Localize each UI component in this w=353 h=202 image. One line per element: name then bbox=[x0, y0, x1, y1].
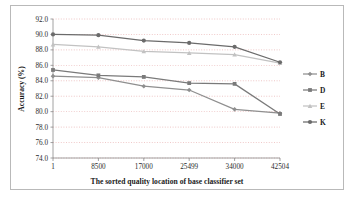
y-tick-label: 84.0 bbox=[35, 77, 48, 85]
y-tick-label: 82.0 bbox=[35, 93, 48, 101]
data-point-marker bbox=[51, 68, 55, 72]
x-tick-label: 42504 bbox=[271, 163, 289, 171]
y-tick-label: 80.0 bbox=[35, 108, 48, 116]
data-point-marker bbox=[233, 45, 237, 49]
x-tick-label: 34000 bbox=[226, 163, 244, 171]
data-point-marker bbox=[97, 73, 101, 77]
legend-label-e: E bbox=[320, 102, 325, 111]
x-tick-label: 1 bbox=[51, 163, 55, 171]
y-tick-label: 86.0 bbox=[35, 62, 48, 70]
data-point-marker bbox=[278, 60, 282, 64]
x-tick-label: 17000 bbox=[135, 163, 153, 171]
y-tick-label: 78.0 bbox=[35, 124, 48, 132]
y-tick-label: 74.0 bbox=[35, 155, 48, 163]
data-point-marker bbox=[308, 120, 312, 124]
x-axis-ticks: 1850017000254993400042504 bbox=[51, 158, 289, 171]
chart-svg: 74.076.078.080.082.084.086.088.090.092.0… bbox=[0, 0, 353, 202]
y-tick-label: 92.0 bbox=[35, 16, 48, 24]
chart-legend: BDEK bbox=[303, 70, 326, 127]
data-point-marker bbox=[278, 112, 282, 116]
x-axis-title: The sorted quality location of base clas… bbox=[91, 177, 244, 186]
y-axis-title: Accuracy (%) bbox=[17, 66, 26, 112]
data-point-marker bbox=[96, 33, 100, 37]
legend-label-k: K bbox=[320, 118, 326, 127]
y-tick-label: 88.0 bbox=[35, 46, 48, 54]
data-point-marker bbox=[142, 75, 146, 79]
data-point-marker bbox=[51, 32, 55, 36]
data-point-marker bbox=[187, 41, 191, 45]
y-tick-label: 90.0 bbox=[35, 31, 48, 39]
data-point-marker bbox=[187, 81, 191, 85]
legend-label-b: B bbox=[320, 70, 325, 79]
line-chart: 74.076.078.080.082.084.086.088.090.092.0… bbox=[0, 0, 353, 202]
y-axis-ticks: 74.076.078.080.082.084.086.088.090.092.0 bbox=[35, 16, 53, 163]
y-tick-label: 76.0 bbox=[35, 139, 48, 147]
x-tick-label: 25499 bbox=[180, 163, 198, 171]
data-point-marker bbox=[308, 72, 313, 77]
legend-label-d: D bbox=[320, 86, 325, 95]
data-point-marker bbox=[233, 82, 237, 86]
data-point-marker bbox=[308, 88, 312, 92]
x-tick-label: 8500 bbox=[91, 163, 106, 171]
data-point-marker bbox=[142, 39, 146, 43]
